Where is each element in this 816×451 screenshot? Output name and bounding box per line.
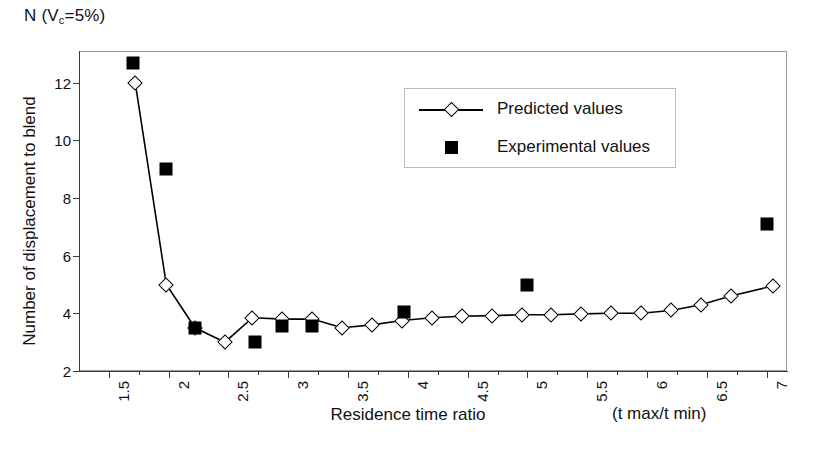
series-path xyxy=(135,83,772,343)
series-line-predicted xyxy=(0,0,816,451)
chart-root: N (Vc=5%) Number of displacement to blen… xyxy=(0,0,816,451)
